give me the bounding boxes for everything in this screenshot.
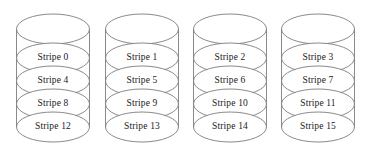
stripe-label-1-3: Stripe 13 (104, 122, 180, 132)
stripe-label-2-2: Stripe 10 (192, 99, 268, 109)
disk-cylinder-2[interactable]: Stripe 2Stripe 6Stripe 10Stripe 14 (192, 0, 268, 147)
disk-top-cap-1 (106, 14, 179, 44)
stripe-label-3-0: Stripe 3 (280, 53, 356, 63)
disk-cylinder-1[interactable]: Stripe 1Stripe 5Stripe 9Stripe 13 (104, 0, 180, 147)
stripe-label-0-3: Stripe 12 (15, 122, 91, 132)
stripe-label-0-1: Stripe 4 (15, 76, 91, 86)
disk-cylinder-0[interactable]: Stripe 0Stripe 4Stripe 8Stripe 12 (15, 0, 91, 147)
stripe-label-0-0: Stripe 0 (15, 53, 91, 63)
disk-top-cap-3 (282, 14, 355, 44)
disk-top-cap-0 (17, 14, 90, 44)
stripe-label-0-2: Stripe 8 (15, 99, 91, 109)
disk-array: Stripe 0Stripe 4Stripe 8Stripe 12Stripe … (0, 0, 366, 147)
stripe-label-2-3: Stripe 14 (192, 122, 268, 132)
stripe-label-1-2: Stripe 9 (104, 99, 180, 109)
stripe-label-1-1: Stripe 5 (104, 76, 180, 86)
stripe-label-2-1: Stripe 6 (192, 76, 268, 86)
stripe-label-3-3: Stripe 15 (280, 122, 356, 132)
stripe-label-3-1: Stripe 7 (280, 76, 356, 86)
disk-top-cap-2 (194, 14, 267, 44)
stripe-label-2-0: Stripe 2 (192, 53, 268, 63)
striping-diagram: Stripe 0Stripe 4Stripe 8Stripe 12Stripe … (0, 0, 366, 147)
stripe-label-3-2: Stripe 11 (280, 99, 356, 109)
disk-cylinder-3[interactable]: Stripe 3Stripe 7Stripe 11Stripe 15 (280, 0, 356, 147)
stripe-label-1-0: Stripe 1 (104, 53, 180, 63)
